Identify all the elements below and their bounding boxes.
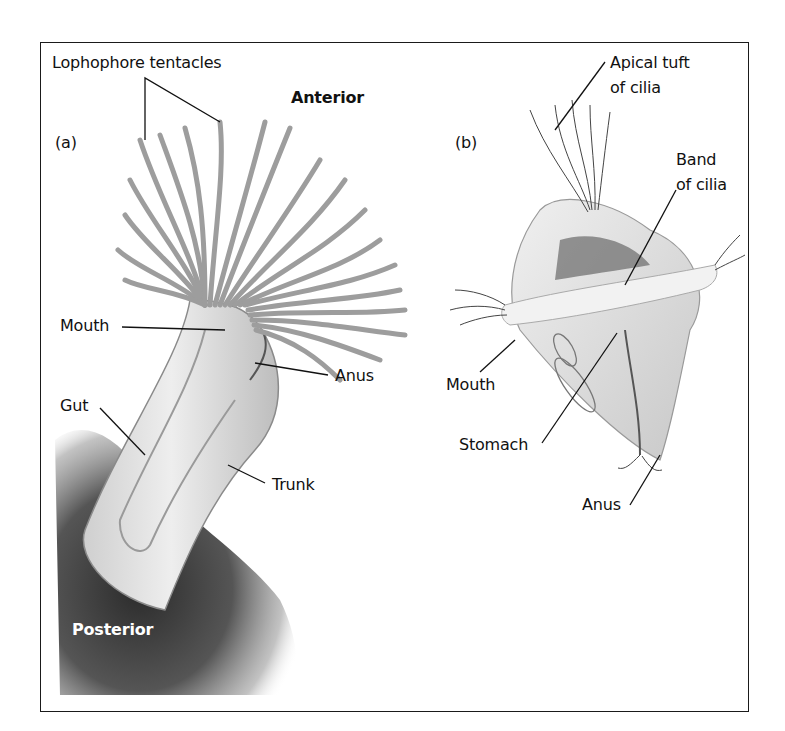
label-mouth-a: Mouth	[60, 318, 109, 334]
panel-b-tag: (b)	[455, 135, 477, 151]
label-anterior: Anterior	[291, 90, 364, 106]
label-anus-b: Anus	[582, 497, 621, 513]
label-band-line1: Band	[676, 152, 716, 168]
label-gut: Gut	[60, 398, 88, 414]
label-posterior: Posterior	[72, 622, 153, 638]
label-anus-a: Anus	[335, 368, 374, 384]
label-lophophore-tentacles: Lophophore tentacles	[52, 55, 222, 71]
actinotroch-larva	[502, 200, 717, 460]
label-mouth-b: Mouth	[446, 377, 495, 393]
panel-a-tag: (a)	[55, 135, 77, 151]
label-stomach: Stomach	[459, 437, 528, 453]
label-trunk: Trunk	[272, 477, 315, 493]
label-apical-tuft-line2: of cilia	[610, 80, 661, 96]
label-apical-tuft-line1: Apical tuft	[610, 55, 690, 71]
label-band-line2: of cilia	[676, 177, 727, 193]
